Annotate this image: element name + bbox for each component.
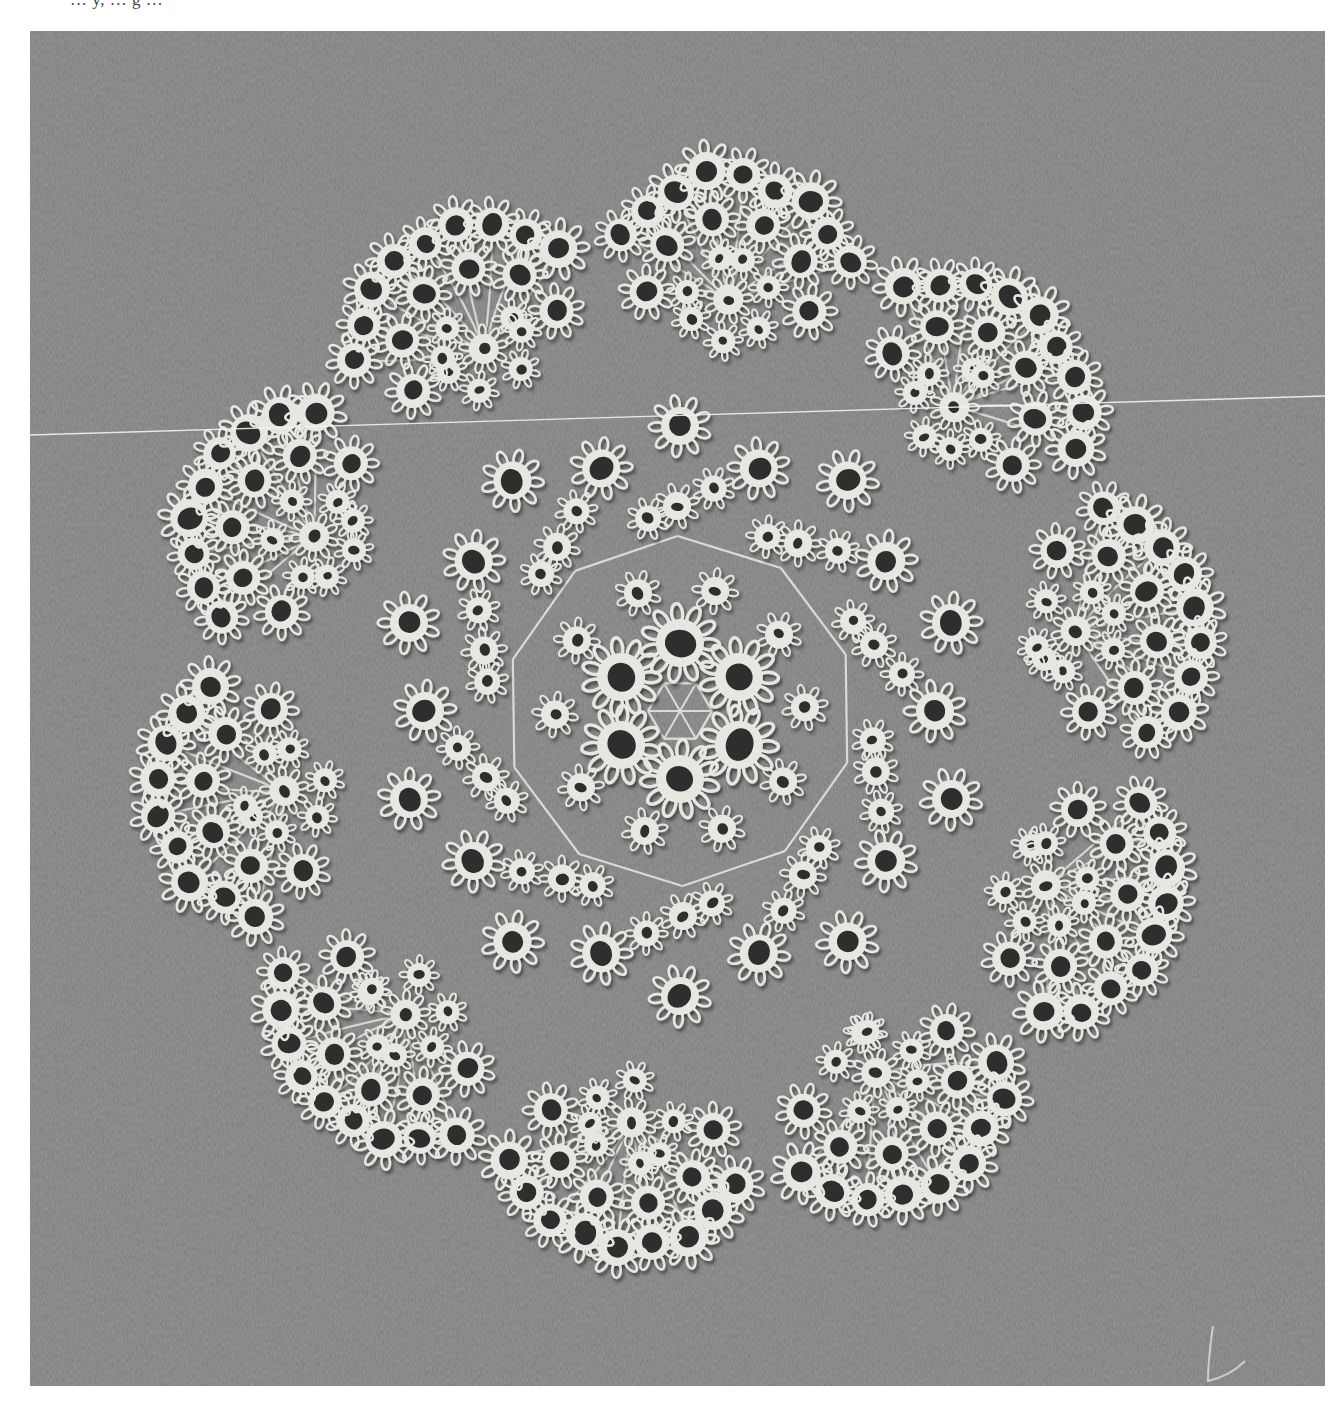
doily-photograph	[30, 31, 1325, 1386]
caption-text: … y, … g …	[70, 0, 163, 10]
cropped-caption: … y, … g …	[40, 0, 940, 30]
doily-scene	[30, 31, 1325, 1386]
